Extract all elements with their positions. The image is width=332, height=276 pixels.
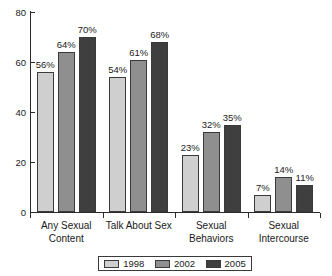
bar [79, 37, 96, 212]
bar-value-label: 56% [32, 60, 58, 70]
bar-value-label: 61% [126, 48, 152, 58]
legend-label: 2002 [174, 259, 195, 269]
legend-item: 2002 [155, 259, 195, 269]
chart-legend: 199820022005 [98, 256, 252, 271]
x-axis-category-label: Sexual Behaviors [175, 220, 248, 245]
bar [203, 132, 220, 212]
x-axis-tick [30, 213, 31, 218]
bar-value-label: 54% [105, 65, 131, 75]
bar [58, 52, 75, 212]
x-axis-tick [175, 213, 176, 218]
bar [130, 60, 147, 213]
bar-value-label: 23% [177, 143, 203, 153]
x-axis-tick [248, 213, 249, 218]
bar-value-label: 70% [74, 25, 100, 35]
bar-value-label: 64% [53, 40, 79, 50]
legend-swatch [155, 260, 170, 268]
bar-chart: 020406080 56%64%70%54%61%68%23%32%35%7%1… [0, 0, 332, 276]
y-axis-tick-label: 80 [0, 8, 26, 17]
legend-label: 1998 [123, 259, 144, 269]
bar [275, 177, 292, 212]
x-axis-tick [103, 213, 104, 218]
legend-swatch [104, 260, 119, 268]
bar [151, 42, 168, 212]
y-axis-tick-label: 40 [0, 108, 26, 117]
bar [182, 155, 199, 213]
bar [224, 125, 241, 213]
legend-item: 1998 [104, 259, 144, 269]
bar-value-label: 68% [147, 30, 173, 40]
plot-area: 56%64%70%54%61%68%23%32%35%7%14%11% [30, 12, 320, 212]
x-axis-category-label: Talk About Sex [103, 220, 176, 233]
legend-swatch [206, 260, 221, 268]
legend-label: 2005 [225, 259, 246, 269]
x-axis-category-label: Any Sexual Content [30, 220, 103, 245]
bar-value-label: 7% [250, 183, 276, 193]
bar-value-label: 35% [219, 113, 245, 123]
bar [254, 195, 271, 213]
legend-item: 2005 [206, 259, 246, 269]
bar [296, 185, 313, 213]
bar-value-label: 11% [292, 173, 318, 183]
x-axis-tick [320, 213, 321, 218]
y-axis-tick-label: 20 [0, 158, 26, 167]
bar [37, 72, 54, 212]
y-axis-tick-label: 0 [0, 208, 26, 217]
x-axis-category-label: Sexual Intercourse [248, 220, 321, 245]
bar [109, 77, 126, 212]
y-axis-tick-label: 60 [0, 58, 26, 67]
